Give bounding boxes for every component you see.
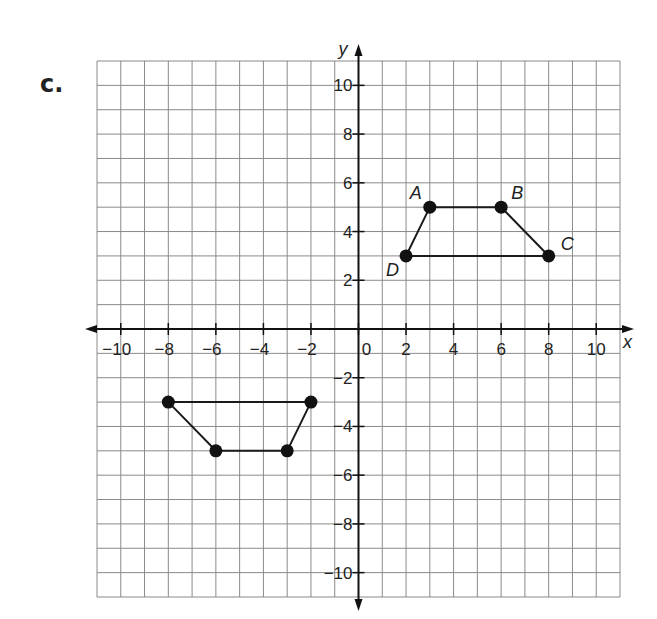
x-tick-label: −10 [102, 340, 131, 359]
x-tick-label: −2 [297, 340, 316, 359]
vertex-point [209, 444, 222, 457]
vertex-point [162, 396, 175, 409]
y-tick-label: 4 [343, 223, 352, 242]
y-tick-label: −4 [333, 417, 352, 436]
axes [85, 44, 634, 611]
vertex-point [400, 249, 413, 262]
coordinate-plane: −10−8−6−4−20246810−10−8−6−4−2246810xy AB… [0, 0, 657, 619]
vertex-label: A [409, 183, 422, 203]
x-tick-label: 2 [401, 340, 410, 359]
y-tick-label: 2 [343, 271, 352, 290]
y-tick-label: −8 [333, 515, 352, 534]
y-tick-label: 8 [343, 125, 352, 144]
vertex-label: C [561, 234, 575, 254]
y-axis-up-arrow-icon [355, 44, 363, 56]
vertex-point [542, 249, 555, 262]
y-axis-label: y [337, 39, 349, 59]
y-axis-down-arrow-icon [355, 599, 363, 611]
vertex-point [281, 444, 294, 457]
y-tick-label: −2 [333, 369, 352, 388]
x-tick-label: 8 [544, 340, 553, 359]
y-tick-label: 6 [343, 174, 352, 193]
vertex-point [423, 201, 436, 214]
polygons: ABCD [162, 183, 575, 457]
x-tick-label: 6 [496, 340, 505, 359]
y-tick-label: 10 [334, 76, 353, 95]
vertex-point [495, 201, 508, 214]
vertex-point [304, 396, 317, 409]
x-tick-label: 10 [587, 340, 606, 359]
x-tick-label: −6 [202, 340, 221, 359]
x-tick-label: 0 [362, 340, 371, 359]
x-axis-left-arrow-icon [85, 325, 97, 333]
y-tick-label: −10 [324, 564, 353, 583]
tick-labels: −10−8−6−4−20246810−10−8−6−4−2246810xy [102, 39, 633, 583]
x-tick-label: 4 [449, 340, 458, 359]
vertex-label: D [386, 260, 399, 280]
y-tick-label: −6 [333, 466, 352, 485]
x-axis-label: x [622, 332, 633, 352]
x-tick-label: −4 [250, 340, 269, 359]
x-tick-label: −8 [155, 340, 174, 359]
vertex-label: B [511, 183, 523, 203]
